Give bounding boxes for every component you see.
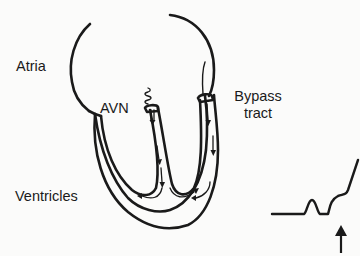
- atria-label: Atria: [16, 59, 46, 74]
- delta-wave-arrow-icon: [335, 225, 347, 253]
- right-ventricle-chamber: [158, 100, 201, 194]
- ecg-trace: [272, 160, 358, 214]
- right-atrial-wall: [170, 15, 214, 96]
- heart-conduction-diagram: [0, 0, 360, 256]
- bypass-label-line2: tract: [228, 106, 288, 121]
- avn-squiggle-icon: [145, 88, 151, 104]
- bypass-tract-label: Bypass tract: [228, 89, 288, 120]
- ventricles-label: Ventricles: [15, 189, 78, 204]
- left-atrial-wall: [71, 24, 90, 111]
- avn-label: AVN: [100, 101, 129, 116]
- bypass-input-line: [202, 62, 205, 94]
- bypass-label-line1: Bypass: [228, 89, 288, 104]
